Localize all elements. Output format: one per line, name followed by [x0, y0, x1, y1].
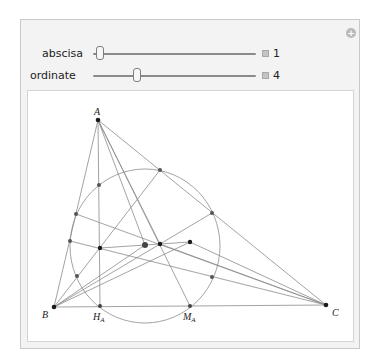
label-ma: MA — [182, 311, 196, 324]
vertex-c-point — [324, 303, 329, 308]
circle-point — [68, 239, 72, 243]
circle-point — [158, 168, 162, 172]
circle-point — [97, 183, 101, 187]
vertex-b-point — [52, 305, 57, 310]
circle-point — [75, 274, 79, 278]
circumcenter-point — [188, 240, 192, 244]
centroid-point — [158, 242, 162, 246]
circle-point — [210, 211, 214, 215]
orthocenter-point — [98, 246, 102, 250]
circle-point — [210, 275, 214, 279]
triangle-diagram: A B C HA MA — [0, 0, 379, 364]
foot-ha-point — [98, 304, 102, 308]
vertex-a-point — [96, 118, 101, 123]
nine-point-center-point — [142, 242, 148, 248]
label-ha: HA — [92, 311, 105, 324]
construction-lines — [54, 120, 326, 323]
label-b: B — [42, 309, 48, 320]
circle-point — [74, 212, 78, 216]
label-a: A — [93, 106, 101, 117]
midpoint-ma-point — [188, 304, 192, 308]
label-c: C — [332, 307, 339, 318]
